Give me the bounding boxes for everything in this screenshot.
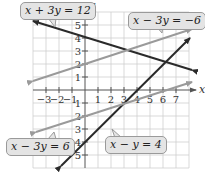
line-x-minus-3y-eq-neg6 bbox=[33, 29, 192, 81]
label-x-plus-3y-eq-12: x + 3y = 12 bbox=[20, 2, 96, 20]
label-x-minus-3y-eq-neg6: x − 3y = −6 bbox=[128, 12, 205, 30]
svg-text:5: 5 bbox=[75, 20, 81, 31]
svg-text:2: 2 bbox=[75, 59, 81, 70]
svg-text:7: 7 bbox=[173, 94, 179, 105]
svg-text:1: 1 bbox=[75, 72, 81, 83]
svg-text:6: 6 bbox=[160, 94, 166, 105]
svg-text:1: 1 bbox=[75, 98, 81, 109]
label-x-minus-y-eq-4: x − y = 4 bbox=[105, 136, 167, 154]
svg-text:1: 1 bbox=[95, 94, 101, 105]
label-x-minus-3y-eq-6: x − 3y = 6 bbox=[6, 138, 75, 156]
svg-text:x: x bbox=[199, 83, 205, 96]
svg-text:2: 2 bbox=[108, 94, 114, 105]
svg-text:3: 3 bbox=[75, 124, 81, 135]
svg-text:3: 3 bbox=[75, 46, 81, 57]
